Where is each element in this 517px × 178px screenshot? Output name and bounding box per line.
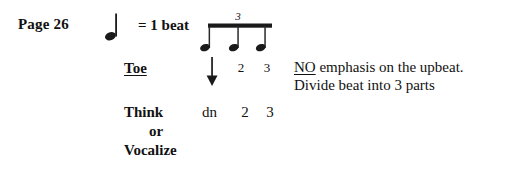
beat-number-3: 3 — [254, 60, 280, 76]
or-line: or — [124, 122, 188, 141]
syllable-dn: dn — [202, 104, 232, 121]
syllable-row: dn23 — [202, 104, 282, 121]
instruction-emphasis-no: NO — [294, 59, 316, 75]
think-or-vocalize-label: Think or Vocalize — [124, 103, 188, 160]
syllable-2: 2 — [232, 104, 258, 121]
beat-number-row: 23 — [228, 60, 280, 76]
instruction-line-2: Divide beat into 3 parts — [294, 76, 464, 94]
instruction-line-1: NO emphasis on the upbeat. — [294, 58, 464, 76]
beat-number-2: 2 — [228, 60, 254, 76]
worksheet-page: Page 26 = 1 beat 3 Toe — [0, 0, 517, 178]
beat-equation-label: = 1 beat — [138, 17, 189, 34]
think-line: Think — [124, 103, 188, 122]
instruction-line-1-rest: emphasis on the upbeat. — [316, 59, 464, 75]
svg-text:3: 3 — [234, 10, 241, 22]
vocalize-line: Vocalize — [124, 141, 188, 160]
down-arrow-icon — [203, 56, 223, 92]
page-label: Page 26 — [18, 16, 69, 33]
toe-row-label: Toe — [124, 60, 147, 77]
syllable-3: 3 — [258, 104, 282, 121]
eighth-note-triplet-beamed-icon: 3 — [200, 10, 282, 62]
instruction-text: NO emphasis on the upbeat. Divide beat i… — [294, 58, 464, 94]
quarter-note-icon — [100, 12, 128, 48]
